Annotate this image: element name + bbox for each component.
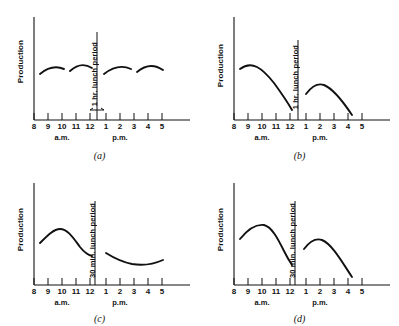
chart-svg-d xyxy=(200,163,399,326)
x-tick-label: 10 xyxy=(55,122,69,131)
x-tick-label: 4 xyxy=(341,287,355,296)
x-tick-label: 2 xyxy=(113,287,127,296)
y-axis-label-c: Production xyxy=(16,208,25,251)
x-tick-label: 8 xyxy=(27,122,41,131)
x-tick-label: 11 xyxy=(69,287,83,296)
chart-panel-d: Production 30 min. lunch period 8 9 10 1… xyxy=(200,163,399,326)
chart-panel-b: Production 1 hr. lunch period 8 9 10 11 … xyxy=(200,0,399,163)
pm-label-a: p.m. xyxy=(107,133,133,142)
x-tick-label: 4 xyxy=(341,122,355,131)
x-tick-label: 2 xyxy=(313,287,327,296)
lunch-period-label-a: 1 hr. lunch period xyxy=(90,42,99,106)
x-tick-label: 3 xyxy=(127,287,141,296)
x-tick-label: 5 xyxy=(355,287,369,296)
am-label-c: a.m. xyxy=(49,298,75,307)
y-axis-label-b: Production xyxy=(216,44,225,87)
production-curves-c xyxy=(40,229,163,265)
x-tick-label: 5 xyxy=(155,122,169,131)
x-tick-label: 12 xyxy=(83,287,97,296)
x-tick-label: 5 xyxy=(355,122,369,131)
x-tick-label: 4 xyxy=(141,287,155,296)
x-tick-label: 12 xyxy=(283,287,297,296)
x-tick-label: 10 xyxy=(55,287,69,296)
x-tick-label: 4 xyxy=(141,122,155,131)
y-axis-label-d: Production xyxy=(216,208,225,251)
pm-label-b: p.m. xyxy=(307,133,333,142)
x-tick-label: 11 xyxy=(269,287,283,296)
chart-svg-c xyxy=(0,163,199,326)
panel-caption-d: (d) xyxy=(200,313,399,324)
x-tick-label: 11 xyxy=(69,122,83,131)
x-tick-label: 9 xyxy=(41,122,55,131)
am-label-b: a.m. xyxy=(249,133,275,142)
x-axis-ticks xyxy=(234,278,362,285)
chart-svg-a xyxy=(0,0,199,163)
am-label-d: a.m. xyxy=(249,298,275,307)
x-tick-label: 10 xyxy=(255,287,269,296)
x-tick-label: 8 xyxy=(227,287,241,296)
chart-panel-a: Production 1 hr. lunch period 8 9 10 11 … xyxy=(0,0,199,163)
x-tick-label: 1 xyxy=(99,287,113,296)
x-tick-label: 9 xyxy=(241,287,255,296)
panel-caption-b: (b) xyxy=(200,150,399,161)
x-tick-label: 9 xyxy=(241,122,255,131)
x-tick-label: 2 xyxy=(313,122,327,131)
x-tick-label: 5 xyxy=(155,287,169,296)
pm-label-d: p.m. xyxy=(307,298,333,307)
x-tick-label: 11 xyxy=(269,122,283,131)
lunch-period-label-b: 1 hr. lunch period xyxy=(291,45,300,109)
x-tick-label: 10 xyxy=(255,122,269,131)
panel-caption-a: (a) xyxy=(0,150,199,161)
pm-label-c: p.m. xyxy=(107,298,133,307)
x-axis-ticks xyxy=(34,113,162,120)
figure-grid: Production 1 hr. lunch period 8 9 10 11 … xyxy=(0,0,399,326)
x-axis-ticks xyxy=(34,278,162,285)
x-tick-label: 1 xyxy=(299,122,313,131)
x-tick-label: 12 xyxy=(83,122,97,131)
x-tick-label: 2 xyxy=(113,122,127,131)
x-tick-label: 8 xyxy=(227,122,241,131)
x-tick-label: 8 xyxy=(27,287,41,296)
x-tick-label: 3 xyxy=(327,287,341,296)
production-curves-a xyxy=(40,65,163,74)
am-label-a: a.m. xyxy=(49,133,75,142)
y-axis-label-a: Production xyxy=(16,40,25,83)
x-tick-label: 3 xyxy=(327,122,341,131)
lunch-period-label-d: 30 min. lunch period xyxy=(288,203,297,278)
x-tick-label: 1 xyxy=(299,287,313,296)
chart-panel-c: Production 30 min. lunch period 8 9 10 1… xyxy=(0,163,199,326)
x-tick-label: 9 xyxy=(41,287,55,296)
panel-caption-c: (c) xyxy=(0,313,199,324)
x-tick-label: 1 xyxy=(99,122,113,131)
lunch-period-label-c: 30 min. lunch period xyxy=(88,203,97,278)
x-tick-label: 12 xyxy=(283,122,297,131)
x-tick-label: 3 xyxy=(127,122,141,131)
